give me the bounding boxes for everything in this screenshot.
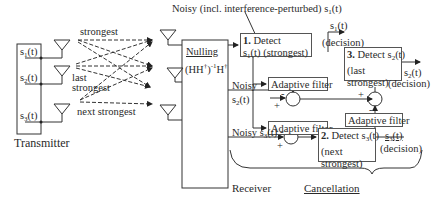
channel-paths [76,40,152,104]
nulling-title: Nulling [186,46,218,57]
sign-plus-2: + [277,140,283,151]
tx-antenna-icons [54,40,70,122]
label-last-strongest: strongest [72,82,110,93]
sign-minus-3: - [369,104,373,115]
sign-plus-1: + [274,100,280,111]
receiver-label: Receiver [232,183,271,194]
diagram-lines [0,0,440,200]
detect2-output-note: (decision) [380,143,422,154]
tx-input-s2: s2(t) [20,72,38,87]
tx-input-s1: s1(t) [20,46,38,61]
rx-antenna-icons [160,30,183,120]
transmitter-label: Transmitter [14,137,70,150]
label-strongest: strongest [80,26,118,37]
detect2-box: 2. Detect s3(t) (next strongest) [318,128,376,162]
detect3-output-note: (decision) [388,78,430,89]
detect1-box: 1. Detect s1(t) (strongest) [240,33,312,57]
sign-plus-3: + [358,89,364,100]
adaptive-filter-3: Adaptive filter [345,113,403,127]
tx-input-s3: s3(t) [20,110,38,125]
cancellation-label: Cancellation [304,183,360,194]
adaptive-filter-1: Adaptive filter [268,77,328,91]
noisy-s2-signal: s2(t) [232,94,250,109]
noisy-s2-label: Noisy [232,80,257,91]
label-next-strongest: next strongest [77,106,136,117]
sign-minus-1: - [281,88,285,99]
sign-minus-2: - [280,126,284,137]
top-annotation: Noisy (incl. interference-perturbed) s1(… [172,3,342,18]
nulling-formula: (HH†)-1H† [185,61,228,75]
noisy-s3-label: Noisy s3(t) [232,127,277,142]
detect1-output: s1(t) [330,20,348,35]
detect3-box: 3. Detect s2(t) (last strongest) [344,47,402,81]
